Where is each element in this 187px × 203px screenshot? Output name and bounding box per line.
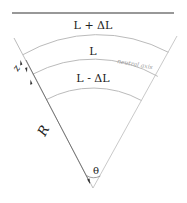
- middle-length-label: L: [89, 45, 97, 58]
- radius-arrow-icon: [87, 178, 90, 184]
- neutral-axis-label: neutral axis: [117, 57, 154, 70]
- angle-label: θ: [93, 165, 99, 176]
- right-edge: [93, 36, 177, 188]
- z-arrow-top-icon: [20, 60, 22, 65]
- outer-length-label: L + ΔL: [74, 19, 113, 32]
- inner-arc: [46, 88, 141, 100]
- z-arrow-mid-icon: [25, 67, 27, 72]
- inner-length-label: L - ΔL: [76, 72, 110, 85]
- beam-bending-diagram: L + ΔL L L - ΔL neutral axis z R θ: [0, 0, 187, 203]
- z-arrow-low-icon: [30, 80, 32, 85]
- radius-label: R: [34, 123, 52, 140]
